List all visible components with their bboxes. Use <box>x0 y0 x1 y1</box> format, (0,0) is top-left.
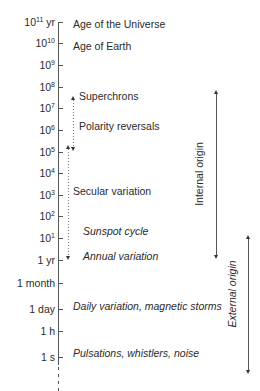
phenomenon-label: Pulsations, whistlers, noise <box>73 347 199 359</box>
axis-tick <box>58 283 63 284</box>
tick-label-day: 1 day <box>29 303 55 315</box>
tick-label-t4: 104 <box>39 167 55 179</box>
tick-label-t6: 106 <box>39 124 55 136</box>
phenomenon-label: Sunspot cycle <box>83 225 148 237</box>
tick-label-t8: 108 <box>39 81 55 93</box>
phenomenon-label: Secular variation <box>73 185 151 197</box>
arrow-up-icon <box>71 96 75 100</box>
tick-label-t3: 103 <box>39 189 55 201</box>
axis-tick <box>58 87 63 88</box>
external-origin-range <box>248 239 249 371</box>
arrow-up-icon <box>246 235 250 239</box>
tick-label-t11: 1011 yr <box>24 16 55 28</box>
axis-tick <box>58 65 63 66</box>
axis-tick <box>58 152 63 153</box>
phenomenon-label: Annual variation <box>83 250 158 262</box>
phenomenon-label: Superchrons <box>79 90 139 102</box>
tick-label-t9: 109 <box>39 59 55 71</box>
axis-tick <box>58 260 63 261</box>
axis-continuation <box>58 367 59 391</box>
arrow-down-icon <box>66 256 70 260</box>
phenomenon-label: Daily variation, magnetic storms <box>73 300 222 312</box>
axis-tick <box>58 195 63 196</box>
internal-origin-label: Internal origin <box>193 134 205 214</box>
internal-origin-range <box>216 94 217 256</box>
axis-tick <box>58 216 63 217</box>
axis-tick <box>58 22 63 23</box>
axis-line <box>58 22 59 365</box>
arrow-up-icon <box>66 145 70 149</box>
tick-label-t5: 105 <box>39 146 55 158</box>
secular-range-dotted <box>68 149 69 257</box>
tick-label-t2: 102 <box>39 210 55 222</box>
arrow-down-icon <box>71 147 75 151</box>
axis-tick <box>58 309 63 310</box>
tick-label-t7: 107 <box>39 102 55 114</box>
axis-tick <box>58 130 63 131</box>
arrow-up-icon <box>214 90 218 94</box>
axis-tick <box>58 173 63 174</box>
axis-tick <box>58 331 63 332</box>
tick-label-month: 1 month <box>17 277 55 289</box>
axis-tick <box>58 238 63 239</box>
external-origin-label: External origin <box>226 254 238 334</box>
tick-label-sec: 1 s <box>41 351 55 363</box>
phenomenon-label: Age of Earth <box>73 40 131 52</box>
tick-label-yr: 1 yr <box>37 254 55 266</box>
arrow-down-icon <box>246 370 250 374</box>
arrow-down-icon <box>214 255 218 259</box>
tick-label-t1: 101 <box>39 232 55 244</box>
axis-tick <box>58 108 63 109</box>
polarity-range-dotted <box>73 100 74 148</box>
tick-label-hour: 1 h <box>40 325 55 337</box>
phenomenon-label: Polarity reversals <box>79 120 160 132</box>
phenomenon-label: Age of the Universe <box>73 18 165 30</box>
axis-tick <box>58 357 63 358</box>
axis-tick <box>58 43 63 44</box>
tick-label-t10: 1010 <box>36 37 55 49</box>
